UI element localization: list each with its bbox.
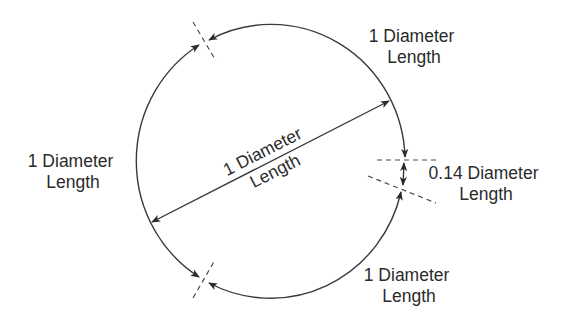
tick-bottom-left [193,260,215,298]
label-bottom-right: 1 Diameter Length [364,265,454,306]
circumference-diagram: 1 Diameter Length 1 Diameter Length 1 Di… [0,0,574,327]
label-center: 1 Diameter Length [220,121,320,200]
gap-arrow [403,163,404,185]
tick-top-left [193,22,216,61]
label-gap: 0.14 Diameter Length [429,163,544,204]
label-left: 1 Diameter Length [28,151,118,192]
left-arc [136,45,199,277]
tick-right-lower [368,176,436,203]
label-top-right: 1 Diameter Length [369,26,459,67]
